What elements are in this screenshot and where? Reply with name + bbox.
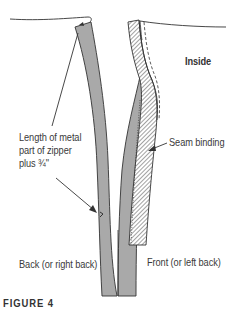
- front-label: Front (or left back): [147, 256, 221, 269]
- length-label-line3: plus ¾": [19, 157, 81, 170]
- back-label: Back (or right back): [19, 258, 97, 271]
- zipper-figure: Inside Length of metal part of zipper pl…: [0, 0, 242, 329]
- inside-label: Inside: [185, 55, 211, 68]
- length-label-line2: part of zipper: [19, 144, 81, 157]
- length-arrow: [56, 178, 94, 210]
- length-label-line1: Length of metal: [19, 131, 81, 144]
- front-fabric-edge: [140, 21, 226, 27]
- figure-caption: FIGURE 4: [3, 297, 54, 309]
- length-label: Length of metal part of zipper plus ¾": [19, 131, 81, 170]
- back-fabric-edge: [10, 17, 91, 22]
- measurement-line: [52, 33, 78, 126]
- seam-binding-label: Seam binding: [169, 136, 224, 149]
